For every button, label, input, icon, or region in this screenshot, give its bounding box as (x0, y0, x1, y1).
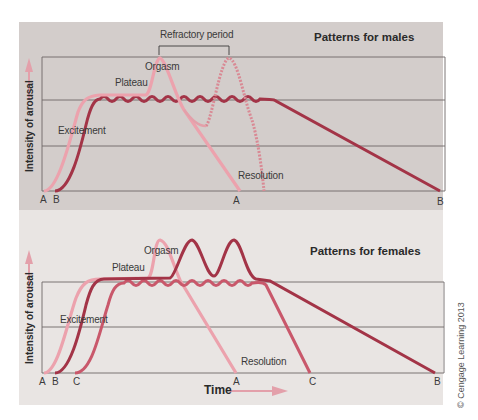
males-tick-a-end: A (233, 195, 240, 206)
females-orgasm-label: Orgasm (144, 245, 178, 256)
females-title: Patterns for females (310, 245, 421, 257)
females-tick-b-end: B (434, 376, 441, 387)
males-tick-b-end: B (437, 196, 444, 207)
time-arrow-icon (230, 386, 288, 396)
males-resolution-label: Resolution (238, 170, 283, 181)
females-tick-c-start: C (73, 376, 80, 387)
males-title: Patterns for males (314, 31, 414, 43)
females-tick-a-start: A (39, 376, 46, 387)
females-tick-a-end: A (233, 376, 240, 387)
males-plateau-label: Plateau (115, 77, 148, 88)
males-orgasm-label: Orgasm (145, 61, 179, 72)
refractory-bracket (159, 46, 229, 55)
refractory-period-label: Refractory period (160, 29, 233, 40)
males-tick-a-start: A (40, 194, 47, 205)
males-excitement-label: Excitement (58, 125, 105, 136)
females-pattern-b-line (55, 240, 435, 373)
sexual-response-diagram (0, 0, 478, 420)
males-y-axis-label: Intensity of arousal (24, 80, 35, 172)
females-resolution-label: Resolution (241, 356, 286, 367)
females-excitement-label: Excitement (60, 314, 107, 325)
time-axis-label: Time (204, 383, 232, 397)
females-tick-c-end: C (309, 376, 316, 387)
females-y-axis-label: Intensity of arousal (24, 272, 35, 364)
females-tick-b-start: B (52, 376, 59, 387)
females-plateau-label: Plateau (112, 262, 145, 273)
males-tick-b-start: B (53, 194, 60, 205)
copyright-text: © Cengage Learning 2013 (456, 302, 466, 408)
